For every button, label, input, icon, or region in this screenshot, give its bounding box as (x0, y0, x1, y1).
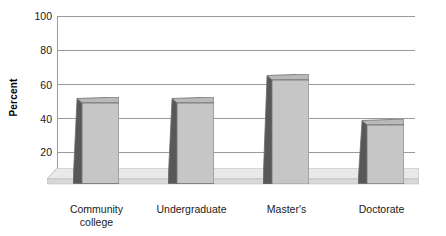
y-tick-80: 80 (18, 45, 52, 56)
gridline-60 (57, 84, 415, 85)
x-label-2: Master's (242, 203, 332, 216)
y-axis-line (57, 16, 58, 184)
bar-doctorate (358, 119, 404, 184)
y-tick-40: 40 (18, 114, 52, 125)
gridline-100 (57, 16, 415, 17)
bar-undergraduate (168, 97, 214, 184)
y-tick-20: 20 (18, 147, 52, 158)
x-label-0: Community college (52, 203, 142, 228)
gridline-80 (57, 50, 415, 51)
x-label-1: Undergraduate (147, 203, 237, 216)
bar-chart: Percent 100 80 60 40 20 Community colleg… (0, 0, 446, 236)
y-tick-100: 100 (18, 11, 52, 22)
y-tick-60: 60 (18, 80, 52, 91)
bar-community-college (73, 97, 119, 184)
x-label-3: Doctorate (337, 203, 427, 216)
y-axis-tick-labels: 100 80 60 40 20 (16, 0, 52, 236)
bar-master-s (263, 74, 309, 184)
